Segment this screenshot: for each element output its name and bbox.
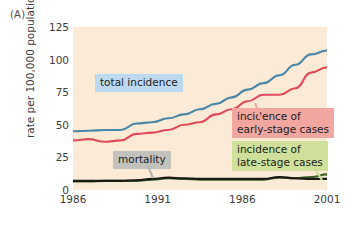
callout-mortality: mortality [113,151,171,169]
y-tick-label: 100 [35,54,69,66]
y-tick-label: 25 [35,151,69,163]
callout-late-stage-line1: incidence of [237,143,323,156]
callout-late-stage-line2: late-stage cases [237,156,323,169]
y-axis-ticks: 0255075100125 [33,27,69,190]
x-tick-label: 1986 [60,193,87,205]
callout-late-stage: incidence of late-stage cases [232,141,328,171]
callout-early-stage-line1: incidence of [237,110,329,123]
x-axis-ticks: 1986199119862001 [73,193,327,209]
y-tick-label: 50 [35,119,69,131]
callout-early-stage: incidence of early-stage cases [232,108,334,138]
panel-letter: (A) [10,9,25,20]
callout-early-stage-line2: early-stage cases [237,123,329,136]
x-tick-label: 1986 [229,193,256,205]
y-tick-label: 125 [35,21,69,33]
x-tick-label: 2001 [314,193,341,205]
y-tick-label: 75 [35,86,69,98]
figure-panel-a: (A) rate per 100,000 population 02550751… [0,0,350,226]
x-tick-label: 1991 [144,193,171,205]
callout-total-incidence: total incidence [95,74,183,92]
